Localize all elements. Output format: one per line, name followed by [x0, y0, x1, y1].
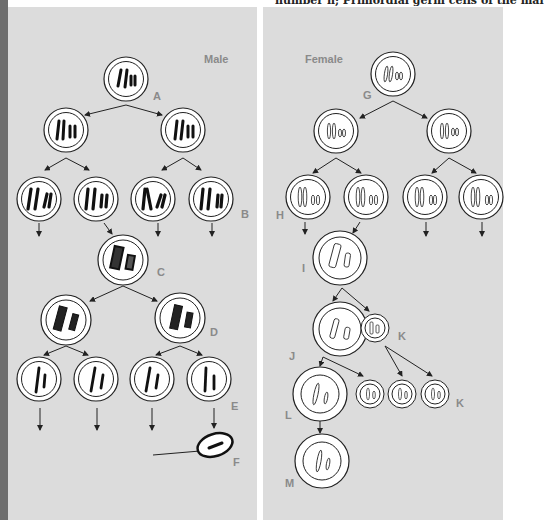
female-title: Female — [305, 53, 343, 65]
male-title: Male — [204, 53, 228, 65]
label-e: E — [231, 400, 238, 412]
label-l: L — [285, 409, 292, 421]
label-b: B — [241, 208, 249, 220]
label-i: I — [302, 262, 305, 274]
cell-i — [313, 231, 367, 285]
label-f: F — [233, 456, 240, 468]
label-k1: K — [398, 330, 406, 342]
label-a: A — [153, 90, 161, 102]
sperm-cell-f — [153, 429, 236, 461]
label-g: G — [363, 89, 372, 101]
label-j: J — [289, 350, 295, 362]
label-d: D — [210, 326, 218, 338]
label-k2: K — [456, 397, 464, 409]
cell-a — [104, 57, 148, 101]
label-m: M — [285, 477, 294, 489]
cell-c — [98, 235, 148, 285]
label-h: H — [276, 209, 284, 221]
label-c: C — [157, 266, 165, 278]
